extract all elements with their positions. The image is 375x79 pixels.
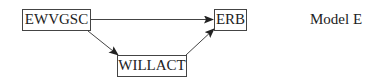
node-ewvgsc: EWVGSC [22,9,91,31]
node-willact: WILLACT [117,55,187,77]
model-title: Model E [310,10,362,29]
node-willact-label: WILLACT [118,57,185,73]
edge-willact-erb [186,29,214,55]
node-ewvgsc-label: EWVGSC [25,11,88,27]
edge-ewvgsc-willact [88,31,118,55]
node-erb: ERB [214,9,247,31]
node-erb-label: ERB [216,11,245,27]
